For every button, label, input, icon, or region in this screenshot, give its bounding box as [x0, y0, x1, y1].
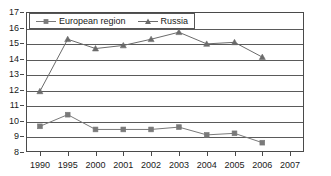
x-tick-label: 2000 — [85, 161, 105, 170]
y-tick-label: 10 — [9, 116, 19, 125]
legend-label: European region — [59, 17, 126, 26]
x-tick-label: 2001 — [113, 161, 133, 170]
x-tick-mark — [151, 152, 152, 156]
data-point-marker — [37, 88, 43, 93]
data-point-marker — [176, 29, 182, 34]
chart-legend: European regionRussia — [29, 13, 195, 29]
x-tick-mark — [96, 152, 97, 156]
x-tick-label: 1990 — [30, 161, 50, 170]
y-tick-mark — [20, 152, 24, 153]
x-tick-mark — [262, 152, 263, 156]
data-point-marker — [65, 36, 71, 41]
x-tick-label: 2003 — [169, 161, 189, 170]
x-tick-label: 2007 — [280, 161, 300, 170]
data-point-marker — [38, 124, 43, 129]
x-tick-mark — [290, 152, 291, 156]
y-tick-label: 9 — [14, 132, 19, 141]
legend-label: Russia — [161, 17, 189, 26]
x-tick-label: 1995 — [58, 161, 78, 170]
x-tick-label: 2002 — [141, 161, 161, 170]
x-tick-label: 2006 — [252, 161, 272, 170]
x-tick-label: 2005 — [224, 161, 244, 170]
legend-entry-0: European region — [36, 17, 126, 26]
y-tick-mark — [20, 90, 24, 91]
y-tick-label: 15 — [9, 39, 19, 48]
y-tick-label: 17 — [9, 8, 19, 17]
data-point-marker — [260, 140, 265, 145]
data-point-marker — [232, 131, 237, 136]
y-tick-label: 16 — [9, 23, 19, 32]
y-tick-label: 14 — [9, 54, 19, 63]
x-tick-mark — [179, 152, 180, 156]
x-axis: 1990199520002001200220032004200520062007 — [26, 152, 304, 174]
y-tick-mark — [20, 74, 24, 75]
legend-entry-1: Russia — [138, 17, 189, 26]
y-tick-mark — [20, 28, 24, 29]
data-point-marker — [259, 54, 265, 59]
y-axis: 891011121314151617 — [0, 12, 24, 152]
data-point-marker — [177, 125, 182, 130]
x-tick-mark — [68, 152, 69, 156]
x-tick-mark — [123, 152, 124, 156]
y-tick-mark — [20, 136, 24, 137]
line-chart: 891011121314151617 199019952000200120022… — [0, 0, 331, 176]
data-point-marker — [149, 127, 154, 132]
legend-triangle-icon — [138, 17, 158, 26]
data-point-marker — [204, 132, 209, 137]
legend-square-icon — [36, 17, 56, 26]
y-tick-mark — [20, 12, 24, 13]
y-tick-mark — [20, 121, 24, 122]
data-point-marker — [65, 112, 70, 117]
y-tick-label: 13 — [9, 70, 19, 79]
x-tick-mark — [40, 152, 41, 156]
y-tick-mark — [20, 59, 24, 60]
series-layer — [26, 12, 304, 152]
x-tick-mark — [207, 152, 208, 156]
data-point-marker — [93, 127, 98, 132]
y-tick-label: 8 — [14, 148, 19, 157]
x-tick-label: 2004 — [197, 161, 217, 170]
data-point-marker — [121, 127, 126, 132]
y-tick-label: 11 — [10, 101, 19, 110]
y-tick-label: 12 — [9, 85, 19, 94]
x-tick-mark — [235, 152, 236, 156]
y-tick-mark — [20, 105, 24, 106]
y-tick-mark — [20, 43, 24, 44]
